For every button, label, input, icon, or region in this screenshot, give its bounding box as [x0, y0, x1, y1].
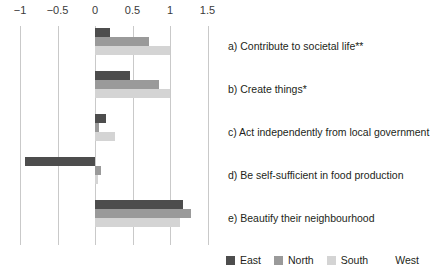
bar-group	[0, 71, 226, 103]
bar-south	[95, 132, 115, 141]
bar-east	[95, 200, 183, 209]
legend-item-west[interactable]: West	[381, 254, 419, 266]
legend-label: East	[240, 254, 261, 266]
bars-layer	[0, 26, 226, 245]
bar-east	[25, 157, 95, 166]
category-label: b) Create things*	[228, 83, 307, 96]
legend-item-east[interactable]: East	[226, 254, 261, 266]
bar-south	[95, 89, 170, 98]
bar-north	[95, 80, 159, 89]
x-tick-label: 1.5	[200, 4, 215, 16]
x-tick-label: −1	[14, 4, 27, 16]
bar-north	[95, 209, 191, 218]
legend-label: South	[341, 254, 368, 266]
legend-item-north[interactable]: North	[274, 254, 314, 266]
bar-group	[0, 114, 226, 146]
legend-label: North	[288, 254, 314, 266]
bar-group	[0, 200, 226, 232]
legend-item-south[interactable]: South	[327, 254, 368, 266]
bar-east	[95, 28, 110, 37]
legend-swatch-icon	[327, 256, 336, 265]
bar-south	[95, 175, 98, 184]
bar-south	[95, 218, 180, 227]
legend-swatch-icon	[381, 256, 390, 265]
category-label: c) Act independently from local governme…	[228, 126, 429, 139]
legend-label: West	[395, 254, 419, 266]
x-axis-tick-labels: −1−0.500.511.5	[0, 0, 226, 26]
legend-swatch-icon	[226, 256, 235, 265]
x-tick-label: 0	[92, 4, 98, 16]
chart-legend: EastNorthSouthWest	[226, 250, 432, 270]
x-tick-label: 1	[167, 4, 173, 16]
category-label: e) Beautify their neighbourhood	[228, 212, 375, 225]
bar-north	[95, 37, 149, 46]
legend-swatch-icon	[274, 256, 283, 265]
horizontal-bar-chart: −1−0.500.511.5 a) Contribute to societal…	[0, 0, 446, 279]
bar-east	[95, 71, 130, 80]
bar-north	[95, 166, 101, 175]
bar-group	[0, 157, 226, 189]
bar-north	[95, 123, 99, 132]
bar-east	[95, 114, 106, 123]
category-label: d) Be self-sufficient in food production	[228, 169, 404, 182]
category-label: a) Contribute to societal life**	[228, 40, 363, 53]
category-labels: a) Contribute to societal life**b) Creat…	[228, 0, 446, 245]
bar-south	[95, 46, 170, 55]
x-tick-label: −0.5	[47, 4, 69, 16]
bar-group	[0, 28, 226, 60]
plot-area: −1−0.500.511.5	[0, 0, 226, 245]
x-tick-label: 0.5	[125, 4, 140, 16]
